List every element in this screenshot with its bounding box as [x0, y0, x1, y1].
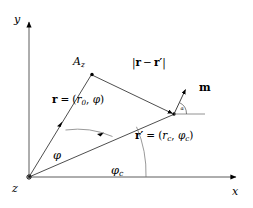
field-point-marker [90, 73, 93, 76]
abs-bar-close: | [162, 56, 166, 68]
phi-c-angle-label: φc [111, 165, 123, 178]
separation-label: |r−r′| [132, 57, 166, 68]
x-axis-label: x [232, 186, 238, 197]
r-vector-arrowhead [57, 122, 63, 127]
r-prime-vector-equals: = [146, 129, 155, 141]
phi-c-subscript: c [119, 169, 123, 178]
r-prime-vector-prime: ′ [141, 129, 144, 141]
diagram-canvas [0, 0, 253, 208]
phi-angle-arc [66, 129, 113, 136]
r-prime-vector-line [29, 115, 174, 178]
y-axis-label: y [14, 14, 20, 25]
z-origin-label: z [12, 183, 18, 194]
origin-dot [28, 176, 30, 178]
r-vector-label: r=(r0, φ) [52, 94, 104, 106]
phi-angle-label: φ [53, 150, 61, 162]
r-symbol: r [136, 56, 142, 68]
field-point-subscript: z [81, 60, 85, 69]
r-prime-symbol: r′ [154, 56, 162, 68]
r-vector-angle: φ [93, 93, 100, 105]
r-prime-vector-paren-close: ) [189, 129, 193, 141]
r-vector-paren-close: ) [100, 93, 104, 105]
moment-vector-label: m [199, 82, 211, 93]
r-vector-symbol: r [52, 93, 58, 105]
r-prime-vector-label: r′=(rc, φc) [135, 130, 193, 142]
minus-symbol: − [143, 56, 152, 68]
field-point-label: Az [73, 56, 85, 68]
vector-diagram-figure: y x z Az |r−r′| r=(r0, φ) r′=(rc, φc) m … [0, 0, 253, 208]
field-point-symbol: A [73, 55, 81, 68]
r-prime-vector-comma: , [171, 129, 178, 141]
r-vector-equals: = [61, 93, 70, 105]
r-vector-comma: , [86, 93, 93, 105]
alpha-angle-label: α [181, 106, 184, 111]
phi-c-symbol: φ [111, 163, 119, 177]
